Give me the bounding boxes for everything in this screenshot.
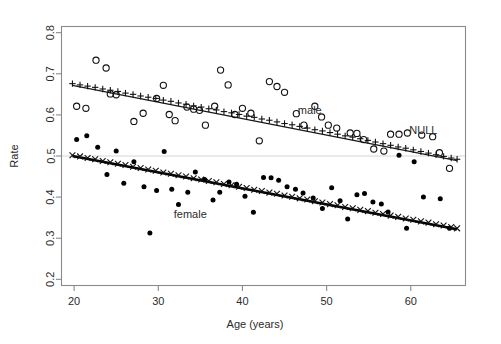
data-point-filled-circle (104, 172, 109, 177)
data-point-filled-circle (269, 175, 274, 180)
data-point-filled-circle (251, 210, 256, 215)
data-point-filled-circle (176, 202, 181, 207)
data-point-filled-circle (421, 195, 426, 200)
plot-background (0, 0, 501, 344)
data-point-filled-circle (147, 230, 152, 235)
data-point-filled-circle (84, 133, 89, 138)
data-point-filled-circle (404, 226, 409, 231)
y-axis-tick-label: 0.6 (45, 107, 57, 122)
y-axis-tick-label: 0.8 (45, 25, 57, 40)
y-axis-tick-label: 0.2 (45, 272, 57, 287)
data-point-filled-circle (397, 153, 402, 158)
y-axis-tick-label: 0.5 (45, 148, 57, 163)
data-point-filled-circle (276, 178, 281, 183)
data-point-filled-circle (114, 149, 119, 154)
female-series-label: female (174, 208, 207, 220)
data-point-filled-circle (293, 187, 298, 192)
data-point-filled-circle (169, 187, 174, 192)
data-point-filled-circle (211, 197, 216, 202)
data-point-filled-circle (141, 184, 146, 189)
data-point-filled-circle (154, 188, 159, 193)
data-point-filled-circle (362, 191, 367, 196)
x-axis-title: Age (years) (227, 318, 284, 330)
data-point-filled-circle (193, 170, 198, 175)
x-axis-tick-label: 20 (68, 295, 80, 307)
data-point-filled-circle (412, 159, 417, 164)
male-series-label: male (298, 104, 322, 116)
data-point-filled-circle (379, 202, 384, 207)
y-axis-tick-label: 0.3 (45, 231, 57, 246)
data-point-filled-circle (354, 192, 359, 197)
plot-canvas: 2030405060 0.20.30.40.50.60.70.8 Age (ye… (0, 0, 501, 344)
x-axis-tick-label: 40 (236, 295, 248, 307)
data-point-filled-circle (320, 206, 325, 211)
data-point-filled-circle (217, 190, 222, 195)
y-axis-tick-label: 0.7 (45, 66, 57, 81)
data-point-filled-circle (121, 181, 126, 186)
x-axis-tick-label: 30 (152, 295, 164, 307)
y-axis-tick-label: 0.4 (45, 189, 57, 204)
y-axis-title: Rate (8, 144, 20, 167)
data-point-filled-circle (301, 191, 306, 196)
data-point-filled-circle (285, 184, 290, 189)
scatter-plot-figure: 2030405060 0.20.30.40.50.60.70.8 Age (ye… (0, 0, 501, 344)
data-point-filled-circle (74, 137, 79, 142)
x-axis-tick-label: 60 (405, 295, 417, 307)
x-axis-tick-label: 50 (321, 295, 333, 307)
data-point-filled-circle (162, 149, 167, 154)
data-point-filled-circle (185, 190, 190, 195)
data-point-filled-circle (242, 194, 247, 199)
data-point-filled-circle (345, 216, 350, 221)
data-point-filled-circle (95, 145, 100, 150)
null-reference-label: NULL (409, 124, 437, 136)
data-point-filled-circle (370, 200, 375, 205)
data-point-filled-circle (261, 175, 266, 180)
data-point-filled-circle (438, 196, 443, 201)
data-point-filled-circle (329, 185, 334, 190)
